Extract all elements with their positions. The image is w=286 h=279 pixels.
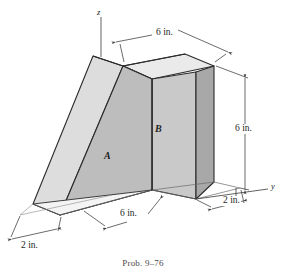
dimension-right-height: 6 in. [234,124,253,134]
dim-base-ext-left [84,211,105,226]
dimension-wedge-thickness: 2 in. [20,241,39,251]
z-axis-label: z [97,8,100,17]
dim-right-ext-top [216,66,248,78]
dimension-top-width: 6 in. [155,28,174,38]
dim-2in-left-ext-b [58,217,61,231]
block-face-b [152,72,196,199]
figure-caption: Prob. 9–76 [0,258,286,268]
dim-top-ext-right [215,54,226,62]
part-label-a: A [104,151,111,161]
dim-top-ext-left [120,44,124,62]
part-label-b: B [155,124,162,134]
dim-base-line-right [148,199,160,214]
y-axis-label: y [271,182,275,191]
dim-top-line-left [116,35,152,42]
block-right-face [196,66,214,199]
dim-right-ext-bot [240,188,249,190]
dim-2in-left-line [12,229,57,239]
dim-2in-left-ext-a [11,216,20,237]
isometric-drawing [0,0,286,279]
dim-top-line-right [178,30,228,52]
dim-base-line-left [107,222,127,228]
solid-body [20,54,240,215]
figure-container: z y A B 6 in. 6 in. 6 in. 2 in. 2 in. Pr… [0,0,286,279]
dimension-base-depth: 6 in. [119,209,138,219]
dim-2in-right-ext-a [197,200,211,207]
dimension-block-thickness: 2 in. [222,196,241,206]
